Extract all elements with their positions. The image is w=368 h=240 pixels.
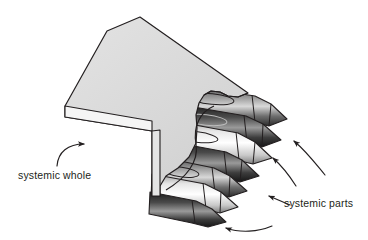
diagram-canvas: systemic whole systemic parts <box>0 0 368 240</box>
box-front-lip <box>152 130 160 196</box>
arrow-to-middle-crayon-tip <box>273 158 296 186</box>
label-systemic-whole: systemic whole <box>18 169 91 181</box>
arrow-to-bottom-crayon-tip <box>226 226 272 231</box>
systemic-whole-parts-illustration: systemic whole systemic parts <box>0 0 368 240</box>
arrow-to-box <box>57 144 84 166</box>
label-systemic-parts: systemic parts <box>284 197 353 209</box>
arrow-to-upper-crayon-tip <box>294 141 325 175</box>
